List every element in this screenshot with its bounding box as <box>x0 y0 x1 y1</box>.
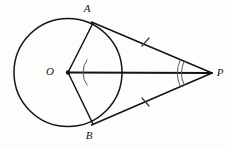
label-O: O <box>46 65 54 77</box>
segment-OP <box>68 73 212 74</box>
label-A: A <box>83 2 91 14</box>
segment-OA <box>68 23 93 73</box>
center-point-dot <box>66 70 70 74</box>
segment-OB <box>68 73 93 125</box>
label-B: B <box>86 129 93 141</box>
segment-PB <box>92 73 213 125</box>
segment-PA <box>92 22 213 73</box>
geometry-figure: O A B P <box>0 0 231 148</box>
diagram-canvas: O A B P <box>0 0 231 148</box>
label-P: P <box>216 66 224 78</box>
